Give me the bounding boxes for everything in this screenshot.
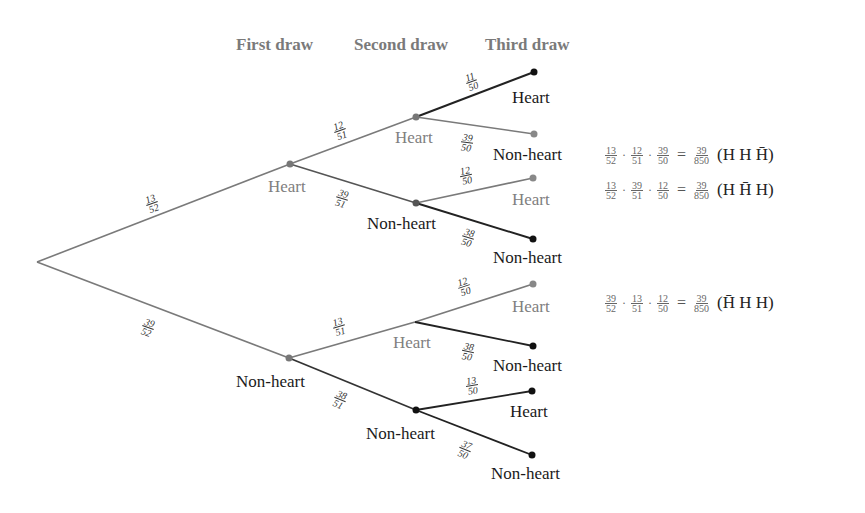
equation-nh-h-h: 3952 · 1351 · 1250 = 39850 (H̄ H H) [605,293,774,313]
equation-hh-nh: 1352 · 1251 · 3950 = 39850 (H H H̄) [605,145,774,165]
node-label-nn: Non-heart [366,424,435,444]
equation-h-nh-h: 1352 · 3951 · 1250 = 39850 (H H̄ H) [605,180,774,200]
leaf-label-5: Heart [512,297,550,317]
header-first-draw: First draw [236,35,313,55]
node-label-heart-1: Heart [268,177,306,197]
leaf-label-3: Heart [512,190,550,210]
leaf-label-7: Heart [510,402,548,422]
leaf-label-6: Non-heart [493,356,562,376]
leaf-label-8: Non-heart [491,464,560,484]
node-label-nh: Heart [393,333,431,353]
node-label-hh: Heart [395,128,433,148]
leaf-label-1: Heart [512,88,550,108]
leaf-label-2: Non-heart [493,145,562,165]
node-label-nonheart-1: Non-heart [236,372,305,392]
leaf-label-4: Non-heart [493,248,562,268]
header-second-draw: Second draw [354,35,448,55]
sequence-label: (H H H̄) [717,145,774,165]
sequence-label: (H H̄ H) [717,180,774,200]
node-label-hn: Non-heart [367,214,436,234]
header-third-draw: Third draw [485,35,570,55]
sequence-label: (H̄ H H) [717,293,774,313]
